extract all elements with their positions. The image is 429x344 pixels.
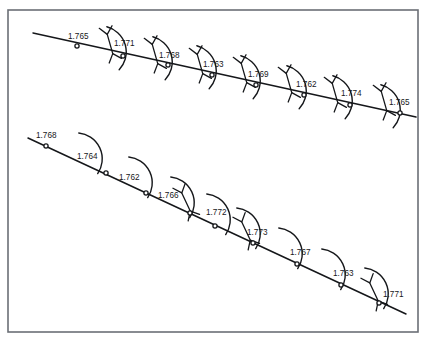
station-marker xyxy=(348,103,352,107)
station-value-label: 1.764 xyxy=(77,152,98,161)
station-value-label: 1.771 xyxy=(383,290,404,299)
station-value-label: 1.763 xyxy=(203,60,224,69)
station-marker xyxy=(144,191,148,195)
station-marker xyxy=(210,73,214,77)
station-value-label: 1.762 xyxy=(296,80,317,89)
station-marker xyxy=(339,283,343,287)
station-marker xyxy=(166,63,170,67)
station-value-label: 1.769 xyxy=(248,70,269,79)
station-marker xyxy=(121,54,125,58)
station-marker xyxy=(188,211,192,215)
station-value-label: 1.767 xyxy=(290,248,311,257)
station-value-label: 1.771 xyxy=(114,39,135,48)
station-marker xyxy=(398,111,402,115)
station-marker xyxy=(104,171,108,175)
figure-page: 1.7651.7711.7681.7631.7691.7621.7741.765… xyxy=(0,0,429,344)
traverse-diagram: 1.7651.7711.7681.7631.7691.7621.7741.765… xyxy=(0,0,429,344)
station-marker xyxy=(377,301,381,305)
station-marker xyxy=(302,93,306,97)
figure-background xyxy=(0,0,429,344)
station-value-label: 1.768 xyxy=(36,131,57,140)
station-value-label: 1.765 xyxy=(389,98,410,107)
station-marker xyxy=(75,44,79,48)
station-value-label: 1.772 xyxy=(206,208,227,217)
station-marker xyxy=(213,224,217,228)
station-value-label: 1.763 xyxy=(333,269,354,278)
station-marker xyxy=(254,83,258,87)
station-marker xyxy=(44,144,48,148)
station-marker xyxy=(295,262,299,266)
station-value-label: 1.762 xyxy=(119,173,140,182)
station-marker xyxy=(251,241,255,245)
station-value-label: 1.766 xyxy=(158,191,179,200)
station-value-label: 1.768 xyxy=(159,51,180,60)
station-value-label: 1.773 xyxy=(247,228,268,237)
station-value-label: 1.765 xyxy=(68,32,89,41)
station-value-label: 1.774 xyxy=(341,89,362,98)
